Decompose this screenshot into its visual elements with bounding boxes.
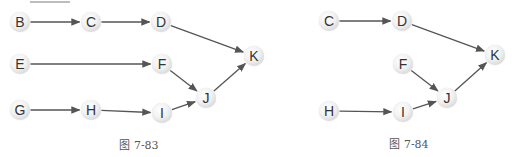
figure-caption-fig2: 图 7-84 xyxy=(389,135,428,151)
node-fig1-b: B xyxy=(10,12,30,32)
node-fig2-c: C xyxy=(319,11,339,31)
node-label: I xyxy=(160,106,164,120)
node-fig1-d: D xyxy=(151,12,171,32)
edge-fig1-i-to-j xyxy=(172,102,195,110)
node-label: C xyxy=(86,15,96,29)
node-label: K xyxy=(249,49,258,63)
node-fig1-f: F xyxy=(152,54,172,74)
node-fig1-e: E xyxy=(10,54,30,74)
node-label: G xyxy=(15,103,26,117)
edge-fig1-d-to-k xyxy=(171,26,243,52)
node-fig1-j: J xyxy=(196,88,216,108)
edge-fig2-f-to-j xyxy=(411,70,438,91)
edge-fig2-h-to-i xyxy=(339,111,391,112)
node-label: F xyxy=(158,57,167,71)
node-fig2-f: F xyxy=(393,54,413,74)
node-label: D xyxy=(156,15,166,29)
node-label: E xyxy=(15,57,24,71)
node-fig2-i: I xyxy=(393,102,413,122)
node-fig1-h: H xyxy=(81,100,101,120)
node-fig2-d: D xyxy=(392,11,412,31)
node-fig1-i: I xyxy=(152,103,172,123)
node-label: F xyxy=(399,57,408,71)
node-fig1-c: C xyxy=(81,12,101,32)
node-fig2-k: K xyxy=(485,45,505,65)
node-fig2-j: J xyxy=(437,88,457,108)
node-label: J xyxy=(444,91,451,105)
node-label: C xyxy=(324,14,334,28)
node-label: D xyxy=(397,14,407,28)
node-fig1-g: G xyxy=(10,100,30,120)
node-fig2-h: H xyxy=(319,101,339,121)
edge-fig1-j-to-k xyxy=(214,64,245,92)
edges-layer xyxy=(0,0,516,157)
edge-fig2-d-to-k xyxy=(412,25,484,51)
edge-fig2-j-to-k xyxy=(455,63,487,91)
edge-fig1-f-to-j xyxy=(170,70,197,91)
edge-fig2-i-to-j xyxy=(413,101,436,108)
node-label: H xyxy=(86,103,96,117)
figure-caption-fig1: 图 7-83 xyxy=(119,136,158,152)
node-label: K xyxy=(490,48,499,62)
diagram-canvas: BCDEFGHIJKCDFHIJK 图 7-83图 7-84 xyxy=(0,0,516,157)
edge-fig1-h-to-i xyxy=(101,110,150,112)
node-label: J xyxy=(203,91,210,105)
node-label: H xyxy=(324,104,334,118)
node-label: I xyxy=(401,105,405,119)
node-label: B xyxy=(15,15,24,29)
node-fig1-k: K xyxy=(244,46,264,66)
